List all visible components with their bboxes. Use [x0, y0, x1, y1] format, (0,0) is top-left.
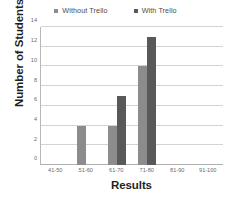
y-axis-tick-label: 10 — [31, 58, 37, 64]
x-axis-tick-label: 41-50 — [40, 168, 71, 174]
y-axis-tick-label: 12 — [31, 38, 37, 44]
bar-group — [132, 27, 162, 165]
bar — [147, 37, 156, 165]
legend-label-without-trello: Without Trello — [62, 7, 107, 14]
legend-label-with-trello: With Trello — [142, 7, 177, 14]
plot-area: 02468101214 — [40, 27, 223, 165]
y-axis-tick-label: 0 — [34, 157, 37, 163]
x-axis-tick-label: 71-80 — [132, 168, 163, 174]
legend-swatch-icon — [54, 9, 58, 13]
bar-group — [41, 27, 71, 165]
bar-group — [71, 27, 101, 165]
bar-group — [162, 27, 192, 165]
x-axis-tick-label: 91-100 — [193, 168, 224, 174]
x-axis-tick-label: 61-70 — [101, 168, 132, 174]
x-axis-title: Results — [40, 179, 223, 191]
bar — [138, 66, 147, 165]
legend-swatch-icon — [134, 9, 138, 13]
bar — [77, 126, 86, 165]
y-axis-title: Number of Students — [13, 0, 25, 118]
y-axis-tick-label: 6 — [34, 97, 37, 103]
y-axis-tick-label: 8 — [34, 78, 37, 84]
plot-area-wrapper: 02468101214 — [40, 27, 223, 165]
bar — [108, 126, 117, 165]
x-axis-tick-label: 81-90 — [162, 168, 193, 174]
bar-group — [193, 27, 223, 165]
bar-group — [102, 27, 132, 165]
bar — [117, 96, 126, 165]
bars-layer — [41, 27, 223, 165]
chart-legend: Without Trello With Trello — [0, 7, 231, 14]
y-axis-tick-label: 4 — [34, 117, 37, 123]
bar-chart: Without Trello With Trello Number of Stu… — [0, 0, 231, 201]
y-axis-tick-label: 14 — [31, 19, 37, 25]
x-axis-tick-labels: 41-5051-6061-7071-8081-9091-100 — [40, 168, 223, 174]
x-axis-tick-label: 51-60 — [71, 168, 102, 174]
legend-entry-without-trello: Without Trello — [54, 7, 107, 14]
y-axis-tick-label: 2 — [34, 137, 37, 143]
legend-entry-with-trello: With Trello — [134, 7, 177, 14]
